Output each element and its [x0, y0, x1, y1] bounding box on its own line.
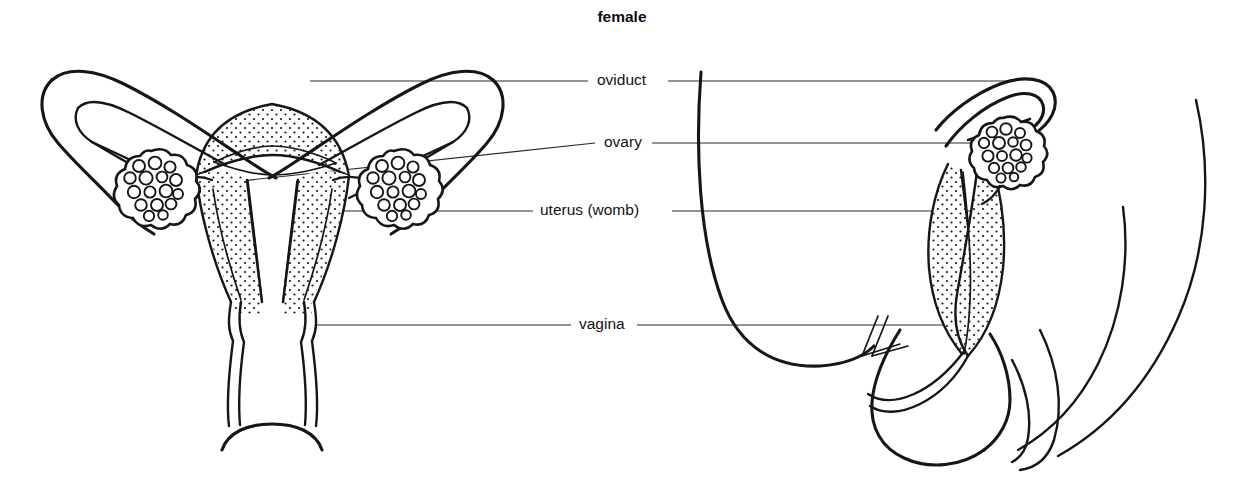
label-ovary: ovary — [604, 133, 642, 150]
lateral-view — [699, 72, 1206, 470]
frontal-view — [42, 71, 503, 450]
labels: oviduct ovary uterus (womb) vagina — [540, 71, 647, 332]
bladder-outline — [699, 72, 874, 366]
ovary-left — [114, 149, 200, 229]
anatomical-diagram: female — [0, 0, 1244, 479]
label-uterus: uterus (womb) — [540, 201, 639, 218]
ovary-lateral — [969, 117, 1047, 190]
label-oviduct: oviduct — [597, 71, 647, 88]
figure-title: female — [597, 8, 646, 25]
body-contour — [1058, 100, 1205, 456]
vagina-frontal — [222, 302, 322, 450]
ovary-right — [357, 149, 443, 229]
label-vagina: vagina — [579, 315, 625, 332]
figure-canvas: female — [0, 0, 1244, 479]
uterus-wall-right — [265, 165, 360, 330]
rectum-outline — [1018, 207, 1125, 450]
